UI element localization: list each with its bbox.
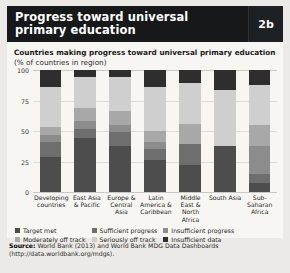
x-axis-label: Latin America & Caribbean (139, 194, 174, 223)
y-axis: 0255075100 (13, 70, 33, 192)
bar-segment (40, 157, 62, 192)
y-axis-tick-label: 75 (21, 97, 29, 104)
figure-title: Progress toward universal primary educat… (15, 11, 188, 37)
legend-label: Target met (23, 227, 56, 234)
bar-segment (179, 70, 201, 83)
bar-column (103, 70, 138, 192)
bar-segment (109, 132, 131, 145)
bar-segment (144, 149, 166, 160)
bar-segment (40, 135, 62, 142)
bar-segment (249, 125, 271, 146)
y-axis-tick-label: 0 (25, 189, 29, 196)
source-note: Source: World Bank (2013) and World Bank… (7, 242, 283, 258)
x-axis-label: Developing countries (33, 194, 70, 223)
figure-title-line2: primary education (15, 24, 188, 37)
x-axis-label: East Asia & Pacific (70, 194, 105, 223)
stacked-bar (214, 70, 236, 192)
bar-column (33, 70, 68, 192)
legend-swatch-icon (163, 228, 168, 233)
bar-segment (179, 124, 201, 145)
legend-swatch-icon (15, 228, 20, 233)
x-axis-label: Sub-Saharan Africa (242, 194, 277, 223)
bar-segment (144, 160, 166, 192)
chart-subtitle-line1: Countries making progress toward univers… (14, 48, 277, 58)
source-text: World Bank (2013) and World Bank MDG Dat… (37, 242, 218, 249)
chart-subtitle: Countries making progress toward univers… (14, 48, 277, 67)
bar-segment (249, 85, 271, 125)
figure-card: Progress toward universal primary educat… (0, 0, 290, 273)
legend-item: Sufficient progress (92, 227, 158, 234)
bar-segment (179, 165, 201, 192)
source-line1: Source: World Bank (2013) and World Bank… (9, 242, 281, 250)
bar-column (207, 70, 242, 192)
y-axis-tick-label: 100 (17, 67, 29, 74)
stacked-bar (74, 70, 96, 192)
bar-segment (109, 77, 131, 111)
x-axis-label: Europe & Central Asia (104, 194, 139, 223)
bar-segment (144, 142, 166, 149)
bar-segment (40, 142, 62, 157)
x-axis-labels: Developing countriesEast Asia & PacificE… (33, 194, 277, 223)
bar-segment (40, 70, 62, 87)
bar-segment (144, 131, 166, 142)
bar-segment (214, 70, 236, 90)
bar-segment (74, 108, 96, 121)
bar-segment (249, 183, 271, 192)
bar-segment (249, 174, 271, 184)
y-axis-tick-label: 25 (21, 158, 29, 165)
legend-label: Sufficient progress (100, 227, 158, 234)
bar-column (242, 70, 277, 192)
bar-segment (40, 87, 62, 127)
x-axis-label: South Asia (208, 194, 243, 223)
chart-legend: Target met Moderately off track Sufficie… (13, 227, 277, 243)
source-label: Source: (9, 242, 36, 249)
bars-container (33, 70, 277, 192)
plot-area: 0255075100 (13, 70, 277, 192)
bar-segment (40, 127, 62, 134)
chart-panel: Countries making progress toward univers… (7, 42, 283, 238)
legend-item: Insufficient progress (163, 227, 234, 234)
chart-subtitle-line2: (% of countries in region) (14, 58, 277, 68)
bar-segment (74, 138, 96, 192)
figure-number-badge: 2b (248, 6, 283, 42)
stacked-bar (249, 70, 271, 192)
bar-column (172, 70, 207, 192)
bar-segment (74, 70, 96, 77)
legend-column-3: Insufficient progress Insufficient data (163, 227, 234, 243)
stacked-bar (179, 70, 201, 192)
bar-column (138, 70, 173, 192)
legend-column-2: Sufficient progress Seriously off track (92, 227, 158, 243)
bar-segment (109, 146, 131, 192)
bar-segment (179, 144, 201, 165)
legend-column-1: Target met Moderately off track (15, 227, 86, 243)
bar-segment (109, 111, 131, 124)
y-gridline (33, 192, 277, 193)
legend-swatch-icon (92, 228, 97, 233)
bar-segment (74, 121, 96, 128)
bar-segment (214, 90, 236, 146)
legend-label: Insufficient progress (171, 227, 234, 234)
stacked-bar (109, 70, 131, 192)
stacked-bar (144, 70, 166, 192)
source-url: (http://data.worldbank.org/mdgs). (9, 250, 281, 258)
bar-segment (109, 70, 131, 77)
legend-item: Target met (15, 227, 86, 234)
bar-column (68, 70, 103, 192)
stacked-bar (40, 70, 62, 192)
figure-header: Progress toward universal primary educat… (7, 6, 283, 42)
bar-segment (249, 70, 271, 85)
bar-segment (74, 129, 96, 139)
bar-segment (144, 87, 166, 131)
bar-segment (144, 70, 166, 87)
bar-segment (109, 125, 131, 132)
bar-segment (74, 77, 96, 108)
x-axis-label: Middle East & North Africa (173, 194, 208, 223)
bar-segment (179, 83, 201, 123)
y-axis-tick-label: 50 (21, 128, 29, 135)
bar-segment (214, 146, 236, 192)
bar-segment (249, 146, 271, 174)
